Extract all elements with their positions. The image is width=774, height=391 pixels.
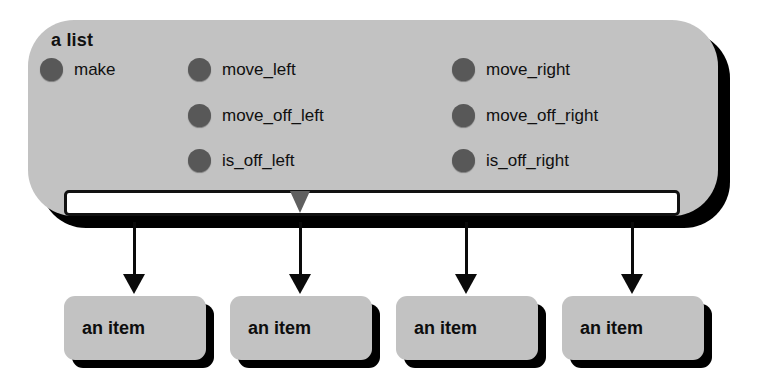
arrow-to-item-1-head (123, 274, 145, 294)
arrow-to-item-3-stem (465, 222, 468, 280)
item-label: an item (562, 296, 704, 360)
method-label: is_off_left (222, 152, 294, 169)
item-label: an item (230, 296, 372, 360)
method-row-is-off-right[interactable]: is_off_right (452, 149, 569, 172)
arrow-to-item-4-stem (631, 222, 634, 280)
method-label: move_off_left (222, 107, 324, 124)
bullet-icon (452, 104, 475, 127)
method-row-move-left[interactable]: move_left (188, 58, 296, 81)
item-box-1[interactable]: an item (64, 296, 206, 360)
arrow-to-item-3-head (455, 274, 477, 294)
method-label: move_off_right (486, 107, 598, 124)
method-label: move_left (222, 61, 296, 78)
arrow-to-item-2-stem (299, 222, 302, 280)
bullet-icon (40, 58, 63, 81)
method-label: is_off_right (486, 152, 569, 169)
bullet-icon (452, 149, 475, 172)
item-label: an item (64, 296, 206, 360)
method-row-is-off-left[interactable]: is_off_left (188, 149, 294, 172)
item-box-4[interactable]: an item (562, 296, 704, 360)
arrow-to-item-2-head (289, 274, 311, 294)
method-label: make (74, 61, 116, 78)
bullet-icon (188, 149, 211, 172)
item-box-3[interactable]: an item (396, 296, 538, 360)
method-row-make[interactable]: make (40, 58, 116, 81)
method-row-move-right[interactable]: move_right (452, 58, 570, 81)
diagram-canvas: a list make move_left move_off_left is_o… (0, 0, 774, 391)
item-label: an item (396, 296, 538, 360)
method-row-move-off-left[interactable]: move_off_left (188, 104, 324, 127)
arrow-to-item-1-stem (133, 222, 136, 280)
list-box[interactable] (28, 20, 718, 216)
arrow-to-item-4-head (621, 274, 643, 294)
list-title: a list (51, 30, 93, 51)
item-box-2[interactable]: an item (230, 296, 372, 360)
cursor-marker-icon (290, 191, 310, 213)
bullet-icon (188, 104, 211, 127)
method-row-move-off-right[interactable]: move_off_right (452, 104, 598, 127)
bullet-icon (188, 58, 211, 81)
bullet-icon (452, 58, 475, 81)
method-label: move_right (486, 61, 570, 78)
contents-bar[interactable] (64, 190, 680, 216)
